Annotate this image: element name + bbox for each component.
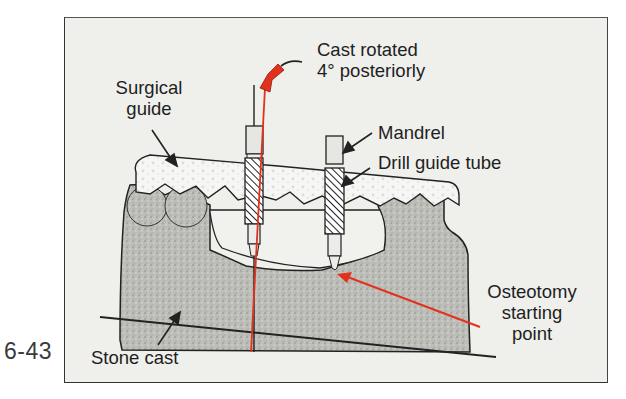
label-surgical-guide-line2: guide <box>106 98 192 119</box>
rotation-arrow-icon <box>260 61 302 92</box>
label-cast-rotated-line1: Cast rotated <box>317 39 425 60</box>
label-surgical-guide: Surgical guide <box>106 77 192 119</box>
label-osteotomy-line2: starting <box>472 302 592 323</box>
label-osteotomy-line1: Osteotomy <box>472 281 592 302</box>
label-osteotomy-starting-point: Osteotomy starting point <box>472 281 592 344</box>
label-stone-cast: Stone cast <box>91 347 178 368</box>
label-drill-guide-tube: Drill guide tube <box>378 152 501 173</box>
label-cast-rotated-line2: 4° posteriorly <box>317 60 425 81</box>
label-osteotomy-line3: point <box>472 323 592 344</box>
label-mandrel: Mandrel <box>378 122 445 143</box>
label-surgical-guide-line1: Surgical <box>106 77 192 98</box>
label-cast-rotated: Cast rotated 4° posteriorly <box>317 39 425 81</box>
stone-cast <box>120 184 470 352</box>
drill-guide-right <box>325 136 344 270</box>
